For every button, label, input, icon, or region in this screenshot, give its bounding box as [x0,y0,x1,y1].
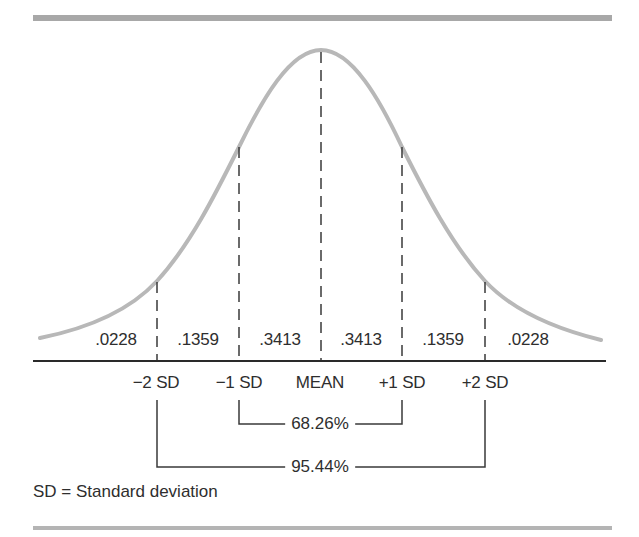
region-label: .1359 [422,330,464,350]
axis-label-minus-2sd: −2 SD [133,373,180,393]
region-label: .3413 [259,330,301,350]
bracket-label-95: 95.44% [285,457,355,477]
region-label: .1359 [177,330,219,350]
axis-label-mean: MEAN [296,373,344,393]
region-label: .3413 [340,330,382,350]
region-label: .0228 [507,330,549,350]
bottom-rule [33,526,612,530]
region-label: .0228 [95,330,137,350]
axis-label-plus-2sd: +2 SD [462,373,509,393]
bracket-label-68: 68.26% [285,414,355,434]
axis-label-minus-1sd: −1 SD [216,373,263,393]
axis-label-plus-1sd: +1 SD [379,373,426,393]
legend-note: SD = Standard deviation [33,482,218,502]
